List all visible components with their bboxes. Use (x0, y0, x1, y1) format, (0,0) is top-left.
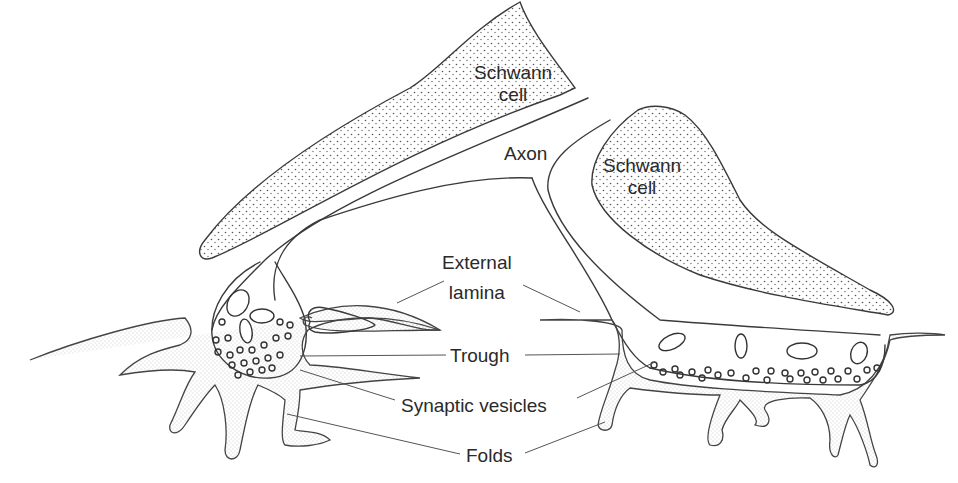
mitochondrion-icon (250, 309, 274, 323)
label-folds: Folds (466, 445, 512, 467)
label-axon: Axon (504, 143, 547, 165)
mitochondrion-icon (787, 343, 817, 359)
mitochondrion-icon (848, 340, 871, 366)
label-external-lamina: External lamina (442, 248, 512, 308)
label-line: cell (474, 84, 552, 106)
right-terminal-lower-edge (650, 345, 885, 385)
label-line: lamina (442, 278, 512, 308)
label-synaptic-vesicles: Synaptic vesicles (401, 395, 547, 417)
mitochondrion-icon (735, 334, 747, 358)
mitochondrion-icon (222, 286, 253, 320)
mitochondrion-icon (656, 330, 687, 355)
left-folds-region (30, 317, 440, 459)
label-line: Schwann (474, 62, 552, 84)
label-line: External (442, 248, 512, 278)
neuromuscular-junction-diagram: Schwann cell Axon Schwann cell External … (0, 0, 958, 483)
schwann-cell-top-shape (200, 2, 575, 259)
label-trough: Trough (450, 345, 510, 367)
schwann-cell-right-shape (592, 106, 894, 315)
label-line: Schwann (603, 155, 681, 177)
label-schwann-cell-right: Schwann cell (603, 155, 681, 199)
label-line: cell (603, 177, 681, 199)
label-schwann-cell-top: Schwann cell (474, 62, 552, 106)
synaptic-vesicles-right (651, 362, 880, 383)
